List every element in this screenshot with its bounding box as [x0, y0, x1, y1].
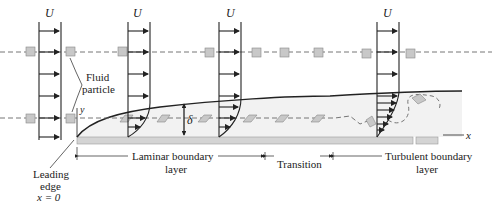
y-axis-label: y: [79, 104, 85, 115]
velocity-label-3: U: [226, 6, 236, 20]
delta-label: δ: [187, 113, 193, 127]
turbulent-label-1: Turbulent boundary: [385, 150, 473, 162]
laminar-label-2: layer: [165, 163, 187, 175]
boundary-layer-diagram: x y U: [0, 0, 492, 202]
transition-label: Transition: [277, 158, 322, 170]
velocity-label-4: U: [383, 6, 393, 20]
leading-edge-label-3: x = 0: [36, 191, 61, 202]
leading-edge-label-1: Leading: [33, 168, 70, 180]
laminar-label-1: Laminar boundary: [132, 150, 214, 162]
velocity-label-2: U: [133, 6, 143, 20]
flat-plate-end: [416, 137, 438, 144]
velocity-profile-uniform: [39, 22, 61, 140]
flat-plate: [77, 137, 413, 144]
region-dimensions: [77, 147, 382, 160]
fluid-particle-leader: [70, 58, 82, 85]
x-axis-label: x: [465, 129, 471, 141]
velocity-label-1: U: [45, 6, 55, 20]
leading-edge-leader: [50, 140, 74, 168]
fluid-particle-label-2: particle: [82, 83, 115, 95]
turbulent-label-2: layer: [416, 163, 438, 175]
fluid-particle-label-1: Fluid: [86, 71, 110, 83]
